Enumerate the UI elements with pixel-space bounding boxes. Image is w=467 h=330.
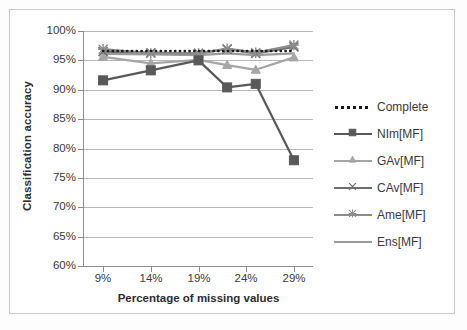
legend-key-icon xyxy=(334,181,372,195)
series-nimmf xyxy=(99,56,299,165)
legend-item-gavmf[interactable]: GAv[MF] xyxy=(334,147,452,174)
legend-marker-triangle-icon xyxy=(348,155,357,164)
legend-key-icon xyxy=(334,100,372,114)
legend-key-icon xyxy=(334,127,372,141)
legend-item-label: Complete xyxy=(377,100,428,114)
legend-marker-x-icon xyxy=(348,182,357,191)
x-axis-title: Percentage of missing values xyxy=(84,292,313,304)
legend-item-cavmf[interactable]: CAv[MF] xyxy=(334,174,452,201)
legend-item-label: CAv[MF] xyxy=(377,181,423,195)
legend-item-label: Ens[MF] xyxy=(377,235,422,249)
legend-item-nimmf[interactable]: NIm[MF] xyxy=(334,120,452,147)
chart-legend: CompleteNIm[MF]GAv[MF]CAv[MF]Ame[MF]Ens[… xyxy=(334,93,452,255)
legend-key-icon xyxy=(334,154,372,168)
y-axis-title: Classification accuracy xyxy=(21,56,33,236)
legend-item-label: GAv[MF] xyxy=(377,154,424,168)
legend-item-complete[interactable]: Complete xyxy=(334,93,452,120)
legend-item-label: Ame[MF] xyxy=(377,208,426,222)
legend-key-icon xyxy=(334,235,372,249)
legend-item-ensmf[interactable]: Ens[MF] xyxy=(334,228,452,255)
legend-item-amemf[interactable]: Ame[MF] xyxy=(334,201,452,228)
legend-marker-square-icon xyxy=(348,128,357,137)
chart-figure: 60%65%70%75%80%85%90%95%100% 9%14%19%24%… xyxy=(0,0,467,330)
plot-wrapper: 60%65%70%75%80%85%90%95%100% 9%14%19%24%… xyxy=(0,0,467,330)
legend-marker-asterisk-icon xyxy=(348,209,357,218)
legend-key-icon xyxy=(334,208,372,222)
legend-item-label: NIm[MF] xyxy=(377,127,423,141)
